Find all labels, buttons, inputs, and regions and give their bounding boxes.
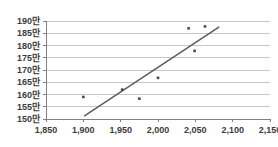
- x-tick-label: 2,150: [250, 125, 278, 135]
- y-tick-label: 155만: [0, 102, 40, 112]
- data-point-marker: [82, 96, 85, 99]
- y-tick-label: 190만: [0, 16, 40, 26]
- x-tick-label: 2,050: [175, 125, 215, 135]
- x-tick-label: 1,950: [101, 125, 141, 135]
- scatter-chart: 150만155만160만165만170만175만180만185만190만 1,8…: [0, 0, 278, 147]
- data-point-marker: [193, 50, 196, 53]
- trendline-path: [84, 27, 219, 116]
- x-tick-label: 2,100: [213, 125, 253, 135]
- y-tick-label: 170만: [0, 65, 40, 75]
- x-tick-label: 2,000: [138, 125, 178, 135]
- data-point-marker: [157, 77, 160, 80]
- y-tick-label: 160만: [0, 90, 40, 100]
- y-tick-label: 150만: [0, 114, 40, 124]
- y-tick-label: 185만: [0, 28, 40, 38]
- trendline: [84, 27, 219, 116]
- y-tick-label: 175만: [0, 53, 40, 63]
- data-point-marker: [204, 25, 207, 28]
- y-tick-label: 180만: [0, 41, 40, 51]
- data-point-group: [82, 25, 206, 100]
- x-tick-label: 1,850: [26, 125, 66, 135]
- x-tick-label: 1,900: [63, 125, 103, 135]
- data-point-marker: [138, 97, 141, 100]
- data-point-marker: [121, 88, 124, 91]
- data-point-marker: [187, 27, 190, 30]
- gridline-group: [46, 21, 270, 119]
- y-tick-label: 165만: [0, 77, 40, 87]
